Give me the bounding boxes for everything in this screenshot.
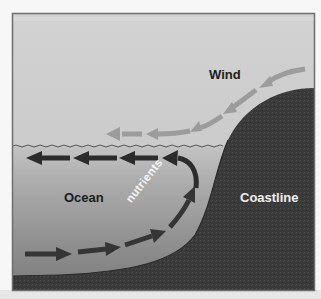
ocean-label: Ocean (64, 190, 104, 205)
bottom-strip (0, 290, 321, 299)
diagram-canvas (0, 0, 321, 299)
coastline-label: Coastline (240, 190, 299, 205)
upwelling-diagram: Wind Ocean Coastline nutrients (0, 0, 321, 299)
wind-label: Wind (209, 67, 241, 82)
